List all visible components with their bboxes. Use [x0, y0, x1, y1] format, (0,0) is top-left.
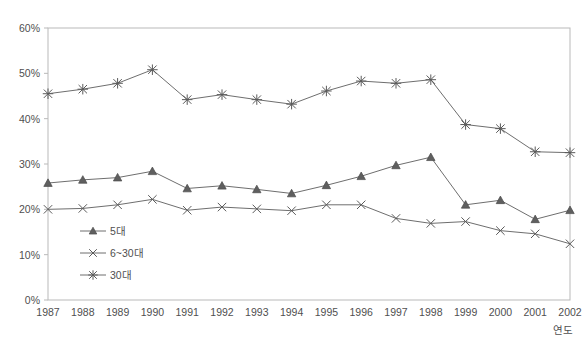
- y-tick-label: 30%: [19, 158, 40, 170]
- x-tick-label: 2001: [524, 306, 548, 318]
- chart-background: [0, 0, 587, 341]
- x-tick-label: 2002: [558, 306, 582, 318]
- y-tick-label: 50%: [19, 67, 40, 79]
- x-tick-label: 2000: [489, 306, 513, 318]
- y-tick-label: 40%: [19, 113, 40, 125]
- x-tick-label: 1991: [176, 306, 200, 318]
- y-tick-label: 60%: [19, 22, 40, 34]
- line-chart: 0%10%20%30%40%50%60% 1987198819891990199…: [0, 0, 587, 341]
- x-tick-label: 1994: [280, 306, 304, 318]
- x-tick-label: 1987: [36, 306, 60, 318]
- y-tick-label: 10%: [19, 249, 40, 261]
- x-tick-label: 1997: [384, 306, 408, 318]
- data-point-marker-asterisk: [147, 64, 158, 75]
- data-point-marker-asterisk: [495, 123, 506, 134]
- x-tick-label: 1988: [71, 306, 95, 318]
- data-point-marker-asterisk: [112, 78, 123, 89]
- data-point-marker-asterisk: [286, 99, 297, 110]
- data-point-marker-asterisk: [426, 74, 437, 85]
- legend-label: 6~30대: [110, 247, 144, 259]
- data-point-marker-asterisk: [321, 86, 332, 97]
- data-point-marker-asterisk: [356, 76, 367, 87]
- x-tick-label: 1992: [210, 306, 234, 318]
- data-point-marker-asterisk: [460, 119, 471, 130]
- x-tick-label: 1995: [315, 306, 339, 318]
- data-point-marker-asterisk: [182, 94, 193, 105]
- x-tick-label: 1998: [419, 306, 443, 318]
- legend-label: 5대: [110, 225, 126, 237]
- x-tick-label: 1989: [106, 306, 130, 318]
- x-axis-title: 연도: [553, 324, 573, 336]
- data-point-marker-asterisk: [88, 270, 98, 280]
- data-point-marker-asterisk: [43, 88, 54, 99]
- data-point-marker-asterisk: [252, 94, 262, 105]
- x-tick-label: 1996: [350, 306, 374, 318]
- x-tick-label: 1999: [454, 306, 478, 318]
- chart-canvas: 0%10%20%30%40%50%60% 1987198819891990199…: [0, 0, 587, 341]
- x-tick-label: 1993: [245, 306, 269, 318]
- data-point-marker-asterisk: [530, 147, 541, 158]
- data-point-marker-asterisk: [217, 89, 228, 100]
- data-point-marker-asterisk: [565, 147, 576, 158]
- data-point-marker-asterisk: [391, 78, 402, 89]
- x-tick-label: 1990: [141, 306, 165, 318]
- y-tick-label: 20%: [19, 203, 40, 215]
- y-tick-label: 0%: [25, 294, 40, 306]
- data-point-marker-asterisk: [78, 84, 89, 95]
- legend-label: 30대: [110, 269, 132, 281]
